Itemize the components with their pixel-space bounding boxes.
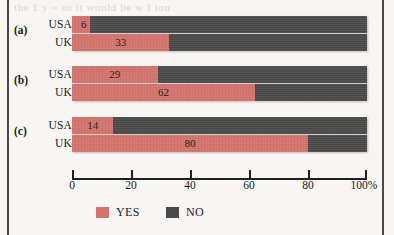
group-tag-a: (a) (14, 25, 36, 37)
x-axis-label-60: 60 (243, 180, 255, 192)
x-axis-label-40: 40 (184, 180, 196, 192)
bar-value-a-uk: 33 (72, 34, 169, 51)
x-axis-tick (249, 170, 251, 179)
bar-b-uk[interactable]: 62 (72, 84, 367, 101)
x-axis-tick (72, 170, 74, 179)
x-axis-line (72, 178, 367, 180)
chart-legend: YES NO (96, 205, 204, 220)
row-label-b-usa: USA (36, 67, 72, 82)
row-label-c-usa: USA (36, 118, 72, 133)
x-axis-label-80: 80 (302, 180, 314, 192)
bar-a-uk[interactable]: 33 (72, 34, 367, 51)
group-tag-c: (c) (14, 126, 36, 138)
stacked-bar-chart: (a) USA 6 UK 33 (b) USA 29 UK 62 (0, 0, 394, 235)
x-axis-label-0: 0 (69, 180, 75, 192)
group-tag-b: (b) (14, 75, 36, 87)
row-label-a-uk: UK (36, 35, 72, 50)
legend-label-yes: YES (116, 205, 140, 220)
bar-c-uk[interactable]: 80 (72, 135, 367, 152)
bar-c-usa[interactable]: 14 (72, 117, 367, 134)
bar-value-a-usa: 6 (72, 16, 96, 33)
bar-value-b-usa: 29 (72, 66, 158, 83)
chart-group-a: (a) USA 6 UK 33 (14, 16, 374, 54)
x-axis-label-20: 20 (125, 180, 137, 192)
x-axis-tick (308, 170, 310, 179)
legend-label-no: NO (186, 205, 204, 220)
bar-value-b-uk: 62 (72, 84, 255, 101)
scanned-figure-page: the 1 y ~ so it would be w I ion (a) USA… (0, 0, 394, 235)
bar-value-c-usa: 14 (72, 117, 113, 134)
x-axis (72, 170, 367, 179)
legend-swatch-no-icon (166, 207, 179, 218)
bar-a-usa[interactable]: 6 (72, 16, 367, 33)
legend-item-yes[interactable]: YES (96, 205, 140, 220)
legend-item-no[interactable]: NO (166, 205, 204, 220)
x-axis-tick (190, 170, 192, 179)
chart-group-b: (b) USA 29 UK 62 (14, 66, 374, 104)
chart-group-c: (c) USA 14 UK 80 (14, 117, 374, 155)
row-label-b-uk: UK (36, 85, 72, 100)
x-axis-label-100: 100% (351, 180, 378, 192)
x-axis-tick (131, 170, 133, 179)
legend-swatch-yes-icon (96, 207, 109, 218)
row-label-a-usa: USA (36, 17, 72, 32)
bar-b-usa[interactable]: 29 (72, 66, 367, 83)
row-label-c-uk: UK (36, 136, 72, 151)
x-axis-tick (365, 170, 367, 179)
bar-value-c-uk: 80 (72, 135, 308, 152)
